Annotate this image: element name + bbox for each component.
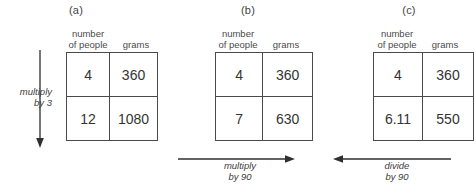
panel-b-column-headers: number of people grams (212, 29, 308, 50)
header-people-line1: number (212, 29, 264, 40)
panel-c: (c) number of people grams 4 360 6.11 55… (313, 0, 476, 193)
cell-grams-row2: 1080 (110, 97, 158, 141)
header-grams-label: grams (114, 40, 158, 51)
header-people-line1: number (62, 29, 114, 40)
table-row: 7 630 (216, 97, 313, 141)
header-people-line2: of people (212, 40, 264, 51)
panel-a-ratio-table: 4 360 12 1080 (66, 52, 158, 141)
panel-b-ratio-table: 4 360 7 630 (215, 52, 313, 141)
panel-a-column-headers: number of people grams (62, 29, 158, 50)
header-grams: grams (423, 29, 467, 50)
cell-people-row1: 4 (374, 53, 423, 97)
panel-c-column-headers: number of people grams (371, 29, 467, 50)
panel-a: (a) number of people grams 4 360 12 1080… (0, 0, 158, 193)
header-grams-label: grams (423, 40, 467, 51)
cell-grams-row1: 360 (423, 53, 474, 97)
header-number-of-people: number of people (212, 29, 264, 50)
panel-a-annotation-line2: by 3 (0, 97, 52, 108)
table-row: 6.11 550 (374, 97, 474, 141)
header-grams: grams (114, 29, 158, 50)
panel-c-ratio-table: 4 360 6.11 550 (373, 52, 474, 141)
cell-people-row1: 4 (67, 53, 110, 97)
header-grams-label: grams (264, 40, 308, 51)
cell-grams-row2: 630 (263, 97, 313, 141)
cell-grams-row1: 360 (110, 53, 158, 97)
cell-grams-row2: 550 (423, 97, 474, 141)
table-row: 4 360 (67, 53, 158, 97)
panel-c-annotation-line1: divide (337, 160, 457, 171)
panel-b: (b) number of people grams 4 360 7 630 m… (158, 0, 313, 193)
panel-b-annotation-line2: by 90 (180, 171, 300, 182)
panel-a-annotation: multiply by 3 (0, 86, 52, 108)
cell-people-row2: 6.11 (374, 97, 423, 141)
cell-people-row1: 4 (216, 53, 263, 97)
panel-a-label: (a) (26, 4, 126, 16)
cell-grams-row1: 360 (263, 53, 313, 97)
panel-b-annotation: multiply by 90 (180, 160, 300, 182)
panel-c-annotation: divide by 90 (337, 160, 457, 182)
header-grams: grams (264, 29, 308, 50)
panel-a-annotation-line1: multiply (0, 86, 52, 97)
panel-c-annotation-line2: by 90 (337, 171, 457, 182)
header-people-line1: number (371, 29, 423, 40)
header-number-of-people: number of people (371, 29, 423, 50)
header-people-line2: of people (62, 40, 114, 51)
table-row: 12 1080 (67, 97, 158, 141)
table-row: 4 360 (374, 53, 474, 97)
header-number-of-people: number of people (62, 29, 114, 50)
panel-b-annotation-line1: multiply (180, 160, 300, 171)
header-people-line2: of people (371, 40, 423, 51)
table-row: 4 360 (216, 53, 313, 97)
cell-people-row2: 12 (67, 97, 110, 141)
cell-people-row2: 7 (216, 97, 263, 141)
panel-c-label: (c) (359, 4, 459, 16)
panel-b-label: (b) (198, 4, 298, 16)
